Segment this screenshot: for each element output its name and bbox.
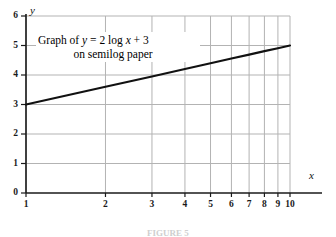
y-tick-label-1: 1 [13,159,18,169]
y-tick-label-6: 6 [13,11,18,21]
x-tick-label-3: 3 [150,200,155,210]
semilog-graph-figure: y x 0123456 12345678910 Graph of y = 2 l… [0,0,336,237]
annotation-line-2: on semilog paper [38,47,198,61]
x-tick-label-7: 7 [247,200,252,210]
y-axis-label: y [30,5,35,16]
x-tick-label-10: 10 [285,200,295,210]
x-tick-label-1: 1 [24,200,29,210]
x-tick-label-6: 6 [229,200,234,210]
x-tick-label-9: 9 [276,200,281,210]
x-tick-label-5: 5 [208,200,213,210]
y-tick-label-0: 0 [13,188,18,198]
figure-caption: FIGURE 5 [0,228,336,237]
x-tick-label-8: 8 [262,200,267,210]
y-tick-label-4: 4 [13,70,18,80]
y-tick-label-2: 2 [13,129,18,139]
y-tick-label-5: 5 [13,41,18,51]
annotation-line-1: Graph of y = 2 log x + 3 [38,33,198,47]
x-tick-label-2: 2 [103,200,108,210]
graph-annotation: Graph of y = 2 log x + 3 on semilog pape… [36,32,200,62]
x-tick-label-4: 4 [183,200,188,210]
y-tick-label-3: 3 [13,100,18,110]
x-axis-label: x [309,170,314,181]
